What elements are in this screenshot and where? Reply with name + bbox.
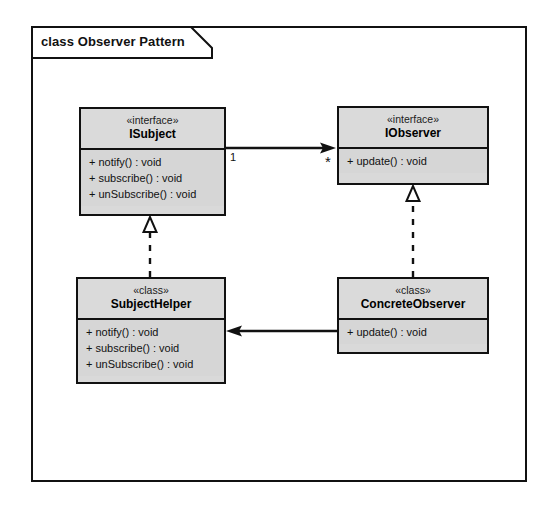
multiplicity-source: 1 [230, 152, 236, 163]
member-row: + subscribe() : void [81, 170, 224, 186]
stereotype-isubject: «interface» [85, 114, 220, 127]
class-box-isubject[interactable]: «interface» ISubject + notify() : void +… [79, 107, 226, 216]
member-row: + subscribe() : void [78, 340, 224, 356]
class-header-isubject: «interface» ISubject [81, 109, 224, 150]
class-name-isubject: ISubject [85, 127, 220, 142]
uml-frame [31, 26, 527, 482]
stereotype-subjecthelper: «class» [82, 284, 220, 297]
class-name-iobserver: IObserver [343, 126, 483, 141]
class-box-concreteobserver[interactable]: «class» ConcreteObserver + update() : vo… [337, 277, 489, 354]
member-row: + update() : void [339, 153, 487, 169]
class-header-iobserver: «interface» IObserver [339, 108, 487, 149]
class-header-concreteobserver: «class» ConcreteObserver [339, 279, 487, 320]
class-members-iobserver: + update() : void [339, 149, 487, 173]
member-row: + unSubscribe() : void [81, 186, 224, 202]
class-name-concreteobserver: ConcreteObserver [343, 297, 483, 312]
member-row: + notify() : void [78, 324, 224, 340]
class-members-subjecthelper: + notify() : void + subscribe() : void +… [78, 320, 224, 376]
class-members-concreteobserver: + update() : void [339, 320, 487, 344]
class-members-isubject: + notify() : void + subscribe() : void +… [81, 150, 224, 206]
class-name-subjecthelper: SubjectHelper [82, 297, 220, 312]
stereotype-iobserver: «interface» [343, 113, 483, 126]
frame-label: class Observer Pattern [31, 26, 215, 57]
class-header-subjecthelper: «class» SubjectHelper [78, 279, 224, 320]
class-box-subjecthelper[interactable]: «class» SubjectHelper + notify() : void … [76, 277, 226, 384]
diagram-canvas: class Observer Pattern «interface» ISubj… [0, 0, 557, 510]
stereotype-concreteobserver: «class» [343, 284, 483, 297]
member-row: + update() : void [339, 324, 487, 340]
member-row: + notify() : void [81, 154, 224, 170]
class-box-iobserver[interactable]: «interface» IObserver + update() : void [337, 106, 489, 185]
multiplicity-target: * [325, 158, 331, 166]
member-row: + unSubscribe() : void [78, 356, 224, 372]
